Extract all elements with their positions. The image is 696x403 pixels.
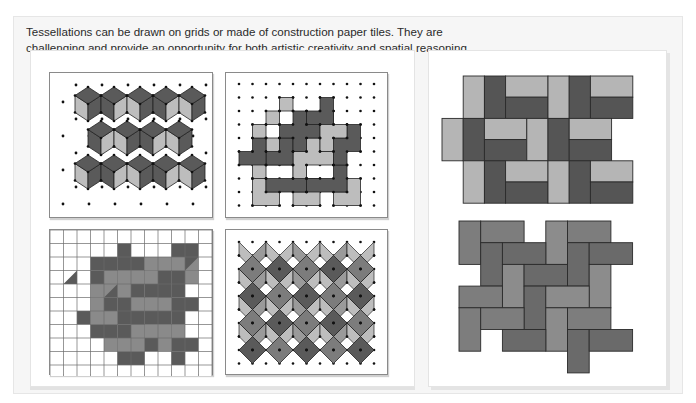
rectangle-tile-pattern [0, 0, 696, 403]
